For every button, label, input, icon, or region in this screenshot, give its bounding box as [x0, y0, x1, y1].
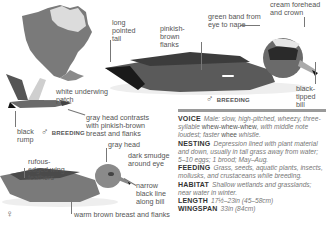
sex-label-male-flight: ♂BREEDING: [41, 126, 85, 137]
callout-gray-head: gray head: [108, 141, 148, 149]
info-wingspan: WINGSPAN33in (84cm): [178, 205, 326, 213]
leader-line: [201, 42, 202, 70]
leader-line: [15, 111, 16, 127]
callout-warm-brown-breast: warm brown breast and flanks: [74, 211, 174, 219]
female-symbol-icon: ♀: [6, 208, 14, 219]
sex-label-female: ♀: [6, 208, 17, 219]
male-symbol-icon: ♂: [206, 93, 214, 104]
callout-dark-smudge: dark smudge around eye: [128, 152, 170, 168]
callout-pinkish-brown-flanks: pinkish-brown flanks: [160, 25, 198, 49]
leader-line: [24, 168, 25, 178]
divider-bar: [178, 109, 326, 112]
callout-white-underwing-patch: white underwing patch: [56, 88, 110, 104]
callout-cream-forehead: cream forehead and crown: [270, 1, 325, 17]
callout-narrow-black-line: narrow black line along bill: [136, 182, 168, 206]
callout-gray-head-contrasts: gray head contrasts with pinkish-brown b…: [86, 114, 158, 138]
callout-long-pointed-tail: long pointed tail: [112, 19, 142, 43]
leader-line: [44, 100, 56, 101]
species-info-panel: VOICEMale: slow, high-pitched, wheezy, t…: [178, 109, 326, 213]
male-symbol-icon: ♂: [41, 126, 49, 137]
info-voice: VOICEMale: slow, high-pitched, wheezy, t…: [178, 115, 326, 140]
leader-line: [106, 148, 107, 162]
info-habitat: HABITATShallow wetlands and grasslands; …: [178, 181, 326, 197]
leader-line: [110, 40, 111, 62]
leader-line: [304, 17, 305, 27]
callout-black-tipped-bill: black-tipped bill: [296, 85, 326, 109]
leader-line: [71, 200, 72, 214]
leader-line: [240, 25, 260, 26]
sex-label-male-breeding: ♂BREEDING: [206, 93, 250, 104]
info-nesting: NESTINGDepression lined with plant mater…: [178, 140, 326, 165]
info-length: LENGTH17½–23in (45–58cm): [178, 197, 326, 205]
callout-rufous-edged-wing: rufous-edged wing feathers: [28, 158, 70, 182]
leader-line: [68, 109, 85, 116]
info-feeding: FEEDINGGrass, seeds, aquatic plants, ins…: [178, 164, 326, 180]
callout-black-rump: black rump: [17, 128, 37, 144]
callout-green-band: green band from eye to nape: [208, 13, 266, 29]
leader-line: [315, 62, 316, 84]
